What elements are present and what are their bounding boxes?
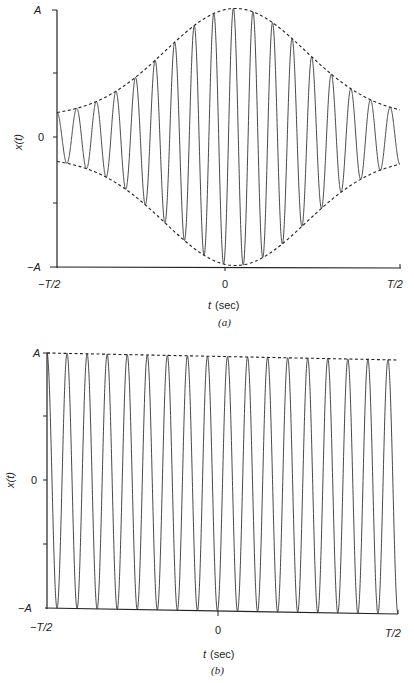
y-axis-title-b: x(t) [4,472,16,489]
caption-b: (b) [211,664,224,677]
x-label-b-left: −T/2 [30,621,52,633]
upper-envelope-a [57,9,400,113]
lower-envelope-a [57,162,400,266]
x-axis-title-a-var: t [208,299,212,311]
y-label-b-zero: 0 [31,474,37,486]
figure: A 0 −A x(t) −T/2 0 T/2 t (sec) (a) A 0 −… [0,0,414,683]
x-axis-b [45,608,398,614]
x-label-a-zero: 0 [222,278,228,290]
x-label-b-right: T/2 [385,627,401,639]
signal-b [47,353,398,614]
x-axis-title-b-var: t [203,648,207,660]
x-label-b-zero: 0 [215,624,221,636]
y-axis-title-a: x(t) [12,134,24,151]
y-label-b-top: A [32,347,40,359]
y-label-b-bottom: −A [18,602,32,614]
y-label-a-top: A [33,4,41,16]
x-axis-title-a-unit: (sec) [215,299,239,311]
plot-a: A 0 −A x(t) −T/2 0 T/2 t (sec) (a) [12,4,403,329]
plot-b: A 0 −A x(t) −T/2 0 T/2 t (sec) (b) [4,347,401,677]
signal-a [57,9,400,265]
caption-a: (a) [218,316,231,329]
x-label-a-right: T/2 [387,278,403,290]
x-axis-title-b-unit: (sec) [210,648,234,660]
x-label-a-left: −T/2 [38,278,60,290]
y-label-a-bottom: −A [27,261,41,273]
y-label-a-zero: 0 [38,131,44,143]
upper-envelope-b [47,353,398,360]
